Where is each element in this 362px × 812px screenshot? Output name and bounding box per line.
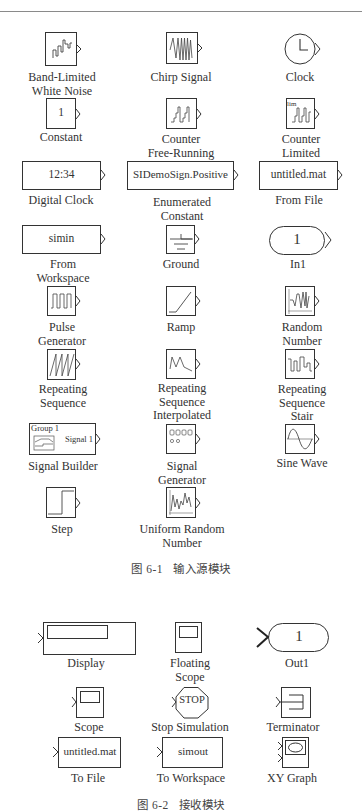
- to-file-value: untitled.mat: [59, 745, 121, 757]
- counter-icon: [166, 98, 206, 134]
- block-label: Ground: [163, 258, 200, 272]
- block-label: Ramp: [167, 321, 196, 335]
- scope-icon: [71, 687, 107, 721]
- chirp-icon: [166, 32, 206, 70]
- block-digital-clock[interactable]: 12:34: [22, 161, 112, 193]
- block-constant[interactable]: 1: [46, 98, 86, 134]
- pulse-icon: [47, 286, 87, 320]
- block-label: SignalGenerator: [158, 460, 206, 487]
- block-label: FromWorkspace: [36, 258, 89, 285]
- stop-text: STOP: [176, 694, 208, 705]
- block-uniform-random-number[interactable]: [166, 487, 206, 521]
- block-chirp-signal[interactable]: [166, 32, 206, 70]
- block-label: Sine Wave: [276, 457, 327, 471]
- block-label: Terminator: [266, 721, 319, 735]
- clock-icon: [284, 33, 324, 69]
- block-label: From File: [275, 194, 323, 208]
- block-counter-free-running[interactable]: [166, 98, 206, 134]
- block-label: Step: [51, 523, 72, 537]
- block-label: In1: [290, 258, 306, 272]
- block-label: Stop Simulation: [151, 721, 229, 735]
- signal-builder-signal: Signal 1: [65, 434, 93, 444]
- block-to-workspace[interactable]: simout: [155, 737, 227, 771]
- block-ramp[interactable]: [166, 286, 206, 320]
- block-label: RandomNumber: [282, 321, 323, 348]
- block-ground[interactable]: [166, 225, 206, 259]
- block-pulse-generator[interactable]: [47, 286, 87, 320]
- block-scope[interactable]: [71, 687, 107, 721]
- block-label: Constant: [40, 131, 83, 145]
- block-label: Out1: [285, 657, 309, 671]
- digital-clock-value: 12:34: [22, 168, 101, 180]
- terminator-icon: [275, 687, 315, 721]
- figure-caption-6-1: 图 6-1 输入源模块: [0, 560, 362, 576]
- from-workspace-value: simin: [22, 232, 101, 244]
- block-signal-builder[interactable]: Group 1 Signal 1: [29, 423, 101, 457]
- block-xy-graph[interactable]: [276, 737, 316, 771]
- block-label: Signal Builder: [28, 460, 98, 474]
- from-file-value: untitled.mat: [259, 168, 338, 180]
- ramp-icon: [166, 286, 206, 320]
- block-label: To Workspace: [157, 772, 225, 786]
- signal-generator-icon: [166, 424, 206, 458]
- block-label: RepeatingSequenceInterpolated: [153, 382, 211, 423]
- step-icon: [46, 487, 86, 521]
- block-label: Clock: [286, 71, 315, 85]
- block-clock[interactable]: [284, 33, 324, 69]
- block-in1[interactable]: 1: [269, 226, 335, 256]
- block-out1[interactable]: 1: [257, 623, 331, 655]
- band-limited-noise-icon: [45, 32, 85, 70]
- block-signal-generator[interactable]: [166, 424, 206, 458]
- block-to-file[interactable]: untitled.mat: [52, 737, 124, 771]
- block-label: Band-LimitedWhite Noise: [28, 71, 95, 98]
- to-workspace-value: simout: [163, 745, 223, 757]
- block-label: EnumeratedConstant: [153, 196, 211, 223]
- block-label: Digital Clock: [29, 194, 94, 208]
- block-label: Uniform RandomNumber: [140, 523, 225, 550]
- inport-number: 1: [269, 231, 325, 248]
- block-terminator[interactable]: [275, 687, 315, 721]
- sawtooth-icon: [47, 349, 87, 383]
- block-label: Display: [67, 657, 104, 671]
- svg-text:lim: lim: [287, 100, 297, 108]
- block-repeating-sequence-stair[interactable]: [285, 349, 325, 383]
- top-rule: [0, 11, 362, 12]
- block-label: RepeatingSequenceStair: [278, 383, 327, 424]
- block-step[interactable]: [46, 487, 86, 521]
- block-random-number[interactable]: [285, 286, 325, 320]
- stair-icon: [285, 349, 325, 383]
- uniform-random-icon: [166, 487, 206, 521]
- block-label: Scope: [74, 721, 103, 735]
- display-icon: [38, 622, 138, 658]
- block-label: Chirp Signal: [150, 71, 211, 85]
- block-label: XY Graph: [267, 772, 317, 786]
- block-from-workspace[interactable]: simin: [22, 225, 112, 257]
- block-stop-simulation[interactable]: STOP: [172, 687, 212, 721]
- block-label: CounterLimited: [282, 133, 321, 160]
- enum-value: SIDemoSign.Positive: [127, 168, 234, 180]
- block-display[interactable]: [38, 622, 138, 658]
- block-repeating-sequence-interpolated[interactable]: [166, 349, 206, 383]
- block-repeating-sequence[interactable]: [47, 349, 87, 383]
- ground-icon: [166, 225, 206, 259]
- block-from-file[interactable]: untitled.mat: [259, 161, 349, 193]
- block-floating-scope[interactable]: [175, 622, 205, 656]
- figure-caption-6-2: 图 6-2 接收模块: [0, 796, 362, 812]
- block-label: FloatingScope: [170, 657, 210, 684]
- constant-value: 1: [46, 106, 76, 118]
- block-band-limited-white-noise[interactable]: [45, 32, 85, 70]
- random-number-icon: [285, 286, 325, 320]
- interpolated-icon: [166, 349, 206, 383]
- block-label: To File: [71, 772, 105, 786]
- block-sine-wave[interactable]: [285, 424, 325, 458]
- signal-builder-group: Group 1: [31, 423, 59, 433]
- block-label: PulseGenerator: [38, 321, 86, 348]
- sine-icon: [285, 424, 325, 458]
- outport-number: 1: [269, 628, 329, 645]
- block-counter-limited[interactable]: lim: [286, 98, 326, 134]
- block-enumerated-constant[interactable]: SIDemoSign.Positive: [127, 161, 247, 193]
- counter-limited-icon: lim: [286, 98, 326, 134]
- block-label: RepeatingSequence: [39, 383, 88, 410]
- block-label: CounterFree-Running: [148, 133, 215, 160]
- xy-graph-icon: [276, 737, 316, 771]
